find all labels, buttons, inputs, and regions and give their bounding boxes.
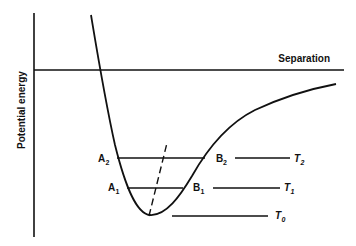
potential-curve [91,15,336,215]
potential-energy-diagram: Potential energy Separation A 2 B 2 A 1 … [0,0,356,246]
svg-text:2: 2 [223,159,227,166]
svg-text:2: 2 [300,159,305,166]
label-B1: B 1 [193,182,205,195]
label-A1: A 1 [108,182,120,195]
label-T0: T 0 [275,210,286,223]
dashed-midpoint-line [149,143,167,216]
svg-text:1: 1 [291,188,295,195]
svg-text:1: 1 [201,188,205,195]
y-axis-label: Potential energy [16,71,27,149]
svg-text:B: B [193,182,200,193]
svg-text:2: 2 [106,159,110,166]
label-T1: T 1 [284,182,295,195]
svg-text:1: 1 [116,188,120,195]
svg-text:0: 0 [282,216,286,223]
label-T2: T 2 [294,153,305,166]
label-A2: A 2 [98,153,110,166]
svg-text:A: A [108,182,115,193]
x-axis-label: Separation [278,53,330,64]
label-B2: B 2 [216,153,227,166]
svg-text:A: A [98,153,105,164]
